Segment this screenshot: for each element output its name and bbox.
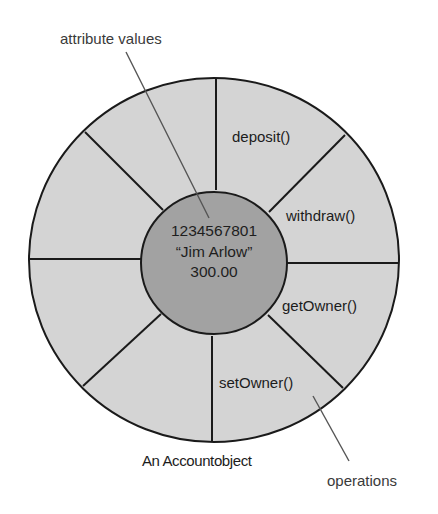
object-caption: An Accountobject	[142, 452, 252, 470]
operations-label: operations	[327, 472, 397, 490]
attribute-balance: 300.00	[141, 262, 287, 283]
attribute-values-label: attribute values	[60, 30, 162, 48]
operation-setowner: setOwner()	[219, 374, 293, 392]
operations-leader-line	[313, 396, 349, 461]
attribute-values: 1234567801 “Jim Arlow” 300.00	[141, 221, 287, 283]
attribute-account-number: 1234567801	[141, 221, 287, 242]
operation-deposit: deposit()	[232, 128, 290, 146]
operation-withdraw: withdraw()	[286, 207, 355, 225]
operation-getowner: getOwner()	[282, 297, 357, 315]
attribute-owner-name: “Jim Arlow”	[141, 242, 287, 263]
